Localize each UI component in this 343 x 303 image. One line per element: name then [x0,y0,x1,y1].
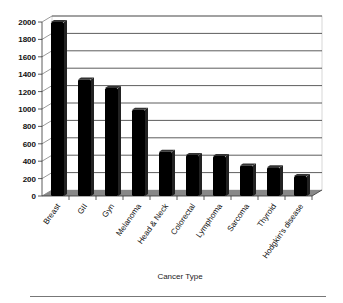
y-tick-label: 1800 [18,35,36,44]
bar [51,20,67,196]
bar-chart: 0200400600800100012001400160018002000 Br… [0,0,343,303]
x-tick-label: Thyroid [255,202,278,229]
bar [78,77,94,196]
bar [186,153,202,196]
bar [132,108,148,196]
bar [267,165,283,196]
x-tick-label: GII [76,202,89,216]
bar [159,150,175,196]
y-tick-label: 1200 [18,88,36,97]
y-tick-label: 0 [32,192,37,201]
y-tick-label: 200 [23,175,37,184]
y-tick-label: 2000 [18,18,36,27]
y-tick-label: 800 [23,122,37,131]
bar [294,174,310,196]
x-tick-label: Lymphoma [194,202,224,240]
x-tick-label: Colorectal [169,202,197,237]
y-axis: 0200400600800100012001400160018002000 [18,18,42,201]
x-tick-label: Breast [42,201,63,226]
y-tick-label: 1600 [18,53,36,62]
x-axis-title: Cancer Type [120,272,240,281]
bar [213,154,229,196]
x-axis: BreastGIIGynMelanomaHead & NeckColorecta… [42,196,312,260]
bar [105,86,121,196]
bar [240,164,256,196]
x-tick-label: Gyn [100,202,116,219]
y-tick-label: 1000 [18,105,36,114]
x-tick-label: Sarcoma [225,202,251,234]
y-tick-label: 1400 [18,70,36,79]
y-tick-label: 400 [23,157,37,166]
y-tick-label: 600 [23,140,37,149]
x-tick-label: Melanoma [114,202,143,238]
divider-line [30,296,326,297]
